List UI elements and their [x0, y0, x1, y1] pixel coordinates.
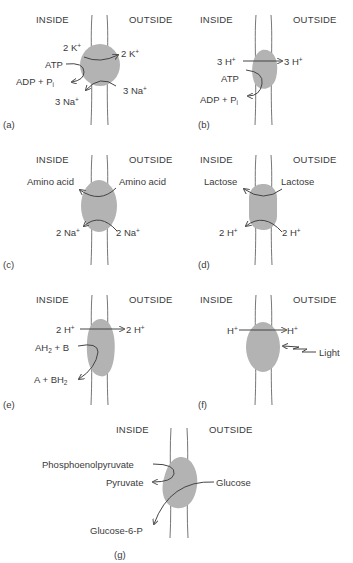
outside-header: OUTSIDE	[129, 15, 173, 25]
outside-header: OUTSIDE	[209, 425, 253, 435]
inside-header: INSIDE	[36, 15, 69, 25]
panel-tag-b: (b)	[198, 120, 210, 130]
inside-header: INSIDE	[200, 15, 233, 25]
label-2h-inside: 2 H+	[219, 228, 238, 238]
label-2na-outside: 2 Na+	[116, 228, 140, 238]
transporter-protein	[249, 184, 277, 230]
inside-header: INSIDE	[36, 155, 69, 165]
outside-header: OUTSIDE	[293, 155, 337, 165]
panel-c: INSIDE OUTSIDE Amino acid Amino acid 2 N…	[0, 140, 176, 280]
panel-tag-a: (a)	[3, 120, 15, 130]
transporter-protein	[80, 44, 120, 86]
panel-tag-e: (e)	[3, 400, 15, 410]
label-atp: ATP	[221, 74, 239, 84]
label-h-outside: H+	[287, 326, 298, 336]
label-3na-inside: 3 Na+	[55, 97, 79, 107]
label-atp: ATP	[45, 60, 63, 70]
label-glucose: Glucose	[216, 478, 251, 488]
label-light: Light	[319, 348, 340, 358]
outside-header: OUTSIDE	[129, 155, 173, 165]
label-3h-outside: 3 H+	[284, 57, 303, 67]
label-2k-outside: 2 K+	[121, 49, 139, 59]
panel-tag-d: (d)	[198, 260, 210, 270]
label-phosphoenolpyruvate: Phosphoenolpyruvate	[42, 460, 134, 470]
panel-tag-f: (f)	[198, 400, 207, 410]
transporter-protein	[252, 50, 277, 89]
panel-tag-c: (c)	[3, 260, 14, 270]
label-ah2-plus-b: AH2 + B	[35, 343, 69, 353]
label-2h-inside: 2 H+	[56, 325, 75, 335]
label-lactose-outside: Lactose	[281, 177, 314, 187]
label-adp-pi: ADP + Pi	[200, 95, 238, 105]
inside-header: INSIDE	[116, 425, 149, 435]
outside-header: OUTSIDE	[293, 15, 337, 25]
outside-header: OUTSIDE	[293, 295, 337, 305]
lightning-icon	[283, 346, 316, 352]
label-2h-outside: 2 H+	[282, 228, 301, 238]
panel-f: INSIDE OUTSIDE H+ H+ Light (f)	[176, 280, 353, 420]
label-pyruvate: Pyruvate	[106, 478, 144, 488]
panel-a: INSIDE OUTSIDE 2 K+ 2 K+ ATP ADP + Pi 3 …	[0, 0, 176, 140]
label-amino-acid-inside: Amino acid	[27, 177, 74, 187]
label-2na-inside: 2 Na+	[56, 228, 80, 238]
label-lactose-inside: Lactose	[204, 177, 237, 187]
panel-d: INSIDE OUTSIDE Lactose Lactose 2 H+ 2 H+…	[176, 140, 353, 280]
panel-e: INSIDE OUTSIDE 2 H+ 2 H+ AH2 + B A + BH2…	[0, 280, 176, 420]
inside-header: INSIDE	[200, 295, 233, 305]
panel-g: INSIDE OUTSIDE Phosphoenolpyruvate Pyruv…	[0, 420, 353, 563]
label-a-plus-bh2: A + BH2	[34, 375, 67, 385]
label-3h-inside: 3 H+	[217, 57, 236, 67]
label-2h-outside: 2 H+	[126, 325, 145, 335]
label-adp-pi: ADP + Pi	[16, 77, 54, 87]
label-amino-acid-outside: Amino acid	[119, 177, 166, 187]
panel-tag-g: (g)	[114, 550, 126, 560]
panel-b: INSIDE OUTSIDE 3 H+ 3 H+ ATP ADP + Pi (b…	[176, 0, 353, 140]
outside-header: OUTSIDE	[129, 295, 173, 305]
label-2k-inside: 2 K+	[63, 43, 81, 53]
inside-header: INSIDE	[200, 155, 233, 165]
label-h-inside: H+	[227, 326, 238, 336]
panel-g-graphic	[0, 420, 353, 563]
inside-header: INSIDE	[36, 295, 69, 305]
label-3na-outside: 3 Na+	[123, 86, 147, 96]
label-glucose-6-p: Glucose-6-P	[90, 526, 143, 536]
